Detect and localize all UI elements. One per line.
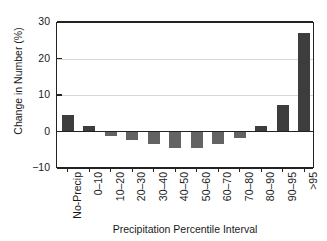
bar — [234, 132, 246, 139]
y-axis-tick-labels: 3020100−10 — [18, 0, 50, 241]
bar — [298, 33, 310, 132]
x-tick-label: 90–95 — [286, 172, 298, 201]
plot-area — [56, 22, 314, 168]
x-tick-label: 70–80 — [243, 172, 255, 201]
y-tick-label: 30 — [24, 16, 50, 26]
bar — [148, 132, 160, 144]
chart-figure: Change in Number (%) 3020100−10 No-Preci… — [0, 0, 327, 241]
bar-series — [57, 22, 313, 168]
bar — [83, 126, 95, 131]
x-tick-label: 0–10 — [92, 172, 104, 195]
y-tick-label: 10 — [24, 89, 50, 99]
bar — [62, 115, 74, 131]
x-axis-tick-labels: No-Precip0–1010–2020–3030–4040–5050–6060… — [56, 168, 314, 220]
x-tick-label: >95 — [307, 172, 319, 190]
y-tick-label: −10 — [24, 162, 50, 172]
bar — [255, 126, 267, 131]
bar — [126, 132, 138, 140]
x-tick-label: No-Precip — [71, 172, 83, 219]
x-tick-label: 80–90 — [264, 172, 276, 201]
x-tick-label: 60–70 — [221, 172, 233, 201]
x-axis-title: Precipitation Percentile Interval — [56, 223, 314, 235]
x-tick-label: 50–60 — [200, 172, 212, 201]
bar — [105, 132, 117, 136]
x-tick-label: 30–40 — [157, 172, 169, 201]
y-tick-label: 20 — [24, 53, 50, 63]
x-tick-label: 40–50 — [178, 172, 190, 201]
y-tick-label: 0 — [24, 126, 50, 136]
bar — [191, 132, 203, 148]
x-tick-label: 20–30 — [135, 172, 147, 201]
bar — [212, 132, 224, 145]
bar — [169, 132, 181, 148]
x-tick-label: 10–20 — [114, 172, 126, 201]
bar — [277, 105, 289, 132]
